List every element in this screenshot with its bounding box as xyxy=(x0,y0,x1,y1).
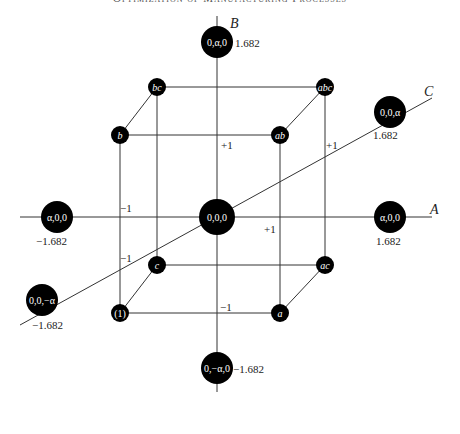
axial-point-a-pos: α,0,0 1.682 xyxy=(374,201,406,247)
svg-text:α,0,0: α,0,0 xyxy=(47,212,67,223)
svg-text:0,−α,0: 0,−α,0 xyxy=(204,363,230,374)
svg-text:c: c xyxy=(155,260,160,271)
central-composite-design-diagram: B A C +1 +1 +1 −1 −1 −1 0,α,0 1.682 0,−α… xyxy=(0,0,460,434)
tick-c-minus: −1 xyxy=(120,252,132,264)
factorial-point-ac: ac xyxy=(316,256,334,274)
svg-text:ab: ab xyxy=(275,130,285,141)
factorial-point-ab: ab xyxy=(271,126,289,144)
axial-value: −1.682 xyxy=(36,235,67,247)
axial-point-a-neg: α,0,0 −1.682 xyxy=(36,201,73,247)
factorial-point-bc: bc xyxy=(148,78,166,96)
axial-point-c-neg: 0,0,−α −1.682 xyxy=(26,284,63,331)
axial-value: 1.682 xyxy=(376,235,401,247)
svg-text:0,α,0: 0,α,0 xyxy=(207,37,227,48)
svg-text:a: a xyxy=(278,308,283,319)
factorial-point-c: c xyxy=(148,256,166,274)
tick-a-minus: −1 xyxy=(120,202,132,214)
svg-text:bc: bc xyxy=(152,82,162,93)
axis-c-label: C xyxy=(424,84,434,99)
tick-a-plus: +1 xyxy=(264,223,276,235)
axial-value: −1.682 xyxy=(32,319,63,331)
axial-point-b-neg: 0,−α,0 −1.682 xyxy=(201,352,264,384)
svg-text:abc: abc xyxy=(318,82,333,93)
center-point: 0,0,0 xyxy=(199,199,235,235)
svg-text:0,0,0: 0,0,0 xyxy=(207,212,227,223)
axial-value: 1.682 xyxy=(373,129,398,141)
svg-text:α,0,0: α,0,0 xyxy=(380,212,400,223)
svg-text:0,0,α: 0,0,α xyxy=(380,107,401,118)
axial-value: 1.682 xyxy=(235,37,260,49)
tick-b-plus: +1 xyxy=(221,139,233,151)
factorial-point-abc: abc xyxy=(316,78,334,96)
svg-text:ac: ac xyxy=(320,260,330,271)
axis-b-label: B xyxy=(230,16,239,31)
svg-text:0,0,−α: 0,0,−α xyxy=(29,295,56,306)
axial-value: −1.682 xyxy=(233,363,264,375)
svg-text:b: b xyxy=(118,130,123,141)
axial-point-c-pos: 0,0,α 1.682 xyxy=(373,96,406,141)
tick-b-minus: −1 xyxy=(220,301,232,313)
factorial-point-a: a xyxy=(271,304,289,322)
svg-text:(1): (1) xyxy=(114,308,126,320)
factorial-point-one: (1) xyxy=(111,304,129,322)
axis-a-label: A xyxy=(429,202,439,217)
tick-c-plus: +1 xyxy=(326,139,338,151)
factorial-point-b: b xyxy=(111,126,129,144)
